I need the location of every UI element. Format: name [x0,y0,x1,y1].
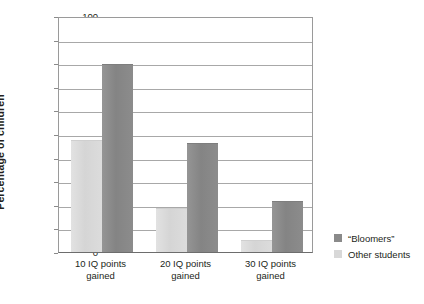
legend-item: Other students [334,247,410,261]
legend-label: Other students [348,249,410,260]
gridline [59,42,312,43]
bar-bloomers [272,201,303,252]
legend: “Bloomers”Other students [334,231,410,263]
x-category-label: 30 IQ pointsgained [226,258,316,281]
bar-bloomers [187,143,218,252]
legend-label: “Bloomers” [348,233,394,244]
gridline [59,65,312,66]
x-category-label: 10 IQ pointsgained [56,258,146,281]
x-category-label-line: 10 IQ points [56,258,146,270]
bar-chart: Percentage of children 01020304050607080… [0,0,424,304]
y-tick-mark [54,253,58,254]
gridline [59,112,312,113]
y-axis-title: Percentage of children [0,0,38,304]
plot-area [58,17,313,253]
bar-other-students [156,208,187,252]
legend-item: “Bloomers” [334,231,410,245]
x-category-label: 20 IQ pointsgained [141,258,231,281]
bar-other-students [241,240,272,252]
x-category-label-line: 30 IQ points [226,258,316,270]
x-category-label-line: 20 IQ points [141,258,231,270]
x-category-label-line: gained [141,270,231,282]
bar-other-students [71,140,102,252]
x-category-label-line: gained [226,270,316,282]
x-category-label-line: gained [56,270,146,282]
bar-bloomers [102,64,133,252]
gridline [59,89,312,90]
legend-swatch [334,250,342,258]
gridline [59,136,312,137]
legend-swatch [334,234,342,242]
